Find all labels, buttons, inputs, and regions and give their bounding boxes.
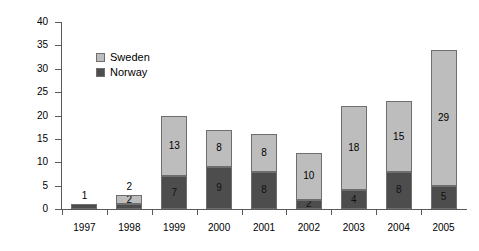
bar-segment-norway[interactable] — [71, 204, 97, 209]
bar-segment-label: 4 — [351, 195, 357, 205]
y-tick-label: 35 — [0, 40, 48, 50]
legend-item-sweden: Sweden — [96, 50, 150, 65]
bar-group[interactable]: 98 — [206, 22, 232, 209]
x-tick-mark — [331, 210, 332, 215]
bar-segment-label: 10 — [303, 171, 314, 181]
bar-segment-norway[interactable]: 5 — [431, 186, 457, 209]
bar-segment-norway[interactable]: 8 — [386, 172, 412, 209]
bar-segment-sweden[interactable]: 2 — [116, 195, 142, 204]
bar-group[interactable]: 418 — [341, 22, 367, 209]
bar-segment-label: 13 — [169, 141, 180, 151]
x-axis-line — [61, 209, 467, 210]
bar-segment-sweden[interactable]: 13 — [161, 116, 187, 177]
x-tick-mark — [62, 210, 63, 215]
bar-group[interactable]: 529 — [431, 22, 457, 209]
bar-group[interactable]: 1 — [71, 22, 97, 209]
bar-group[interactable]: 815 — [386, 22, 412, 209]
y-tick-mark — [55, 209, 61, 210]
x-tick-mark — [107, 210, 108, 215]
bar-group[interactable]: 713 — [161, 22, 187, 209]
y-tick-label: 40 — [0, 17, 48, 27]
x-tick-label: 2005 — [414, 222, 474, 233]
y-tick-label: 10 — [0, 157, 48, 167]
bar-segment-norway[interactable]: 9 — [206, 167, 232, 209]
y-tick-label: 5 — [0, 181, 48, 191]
y-tick-label: 15 — [0, 134, 48, 144]
bar-segment-sweden[interactable]: 29 — [431, 50, 457, 186]
bar-segment-label: 29 — [438, 113, 449, 123]
bar-segment-norway[interactable]: 2 — [296, 200, 322, 209]
bar-group[interactable]: 210 — [296, 22, 322, 209]
y-tick-label: 25 — [0, 87, 48, 97]
bar-segment-label: 15 — [393, 132, 404, 142]
legend-label-norway: Norway — [110, 67, 147, 78]
norway-swatch-icon — [96, 68, 105, 77]
bar-segment-label: 9 — [216, 183, 222, 193]
bar-chart-figure: Number of attacked dogs 0510152025303540… — [0, 0, 479, 251]
x-tick-mark — [376, 210, 377, 215]
y-tick-mark — [55, 116, 61, 117]
legend-label-sweden: Sweden — [110, 52, 150, 63]
y-tick-mark — [55, 139, 61, 140]
bar-segment-sweden[interactable]: 10 — [296, 153, 322, 200]
bar-segment-norway[interactable] — [116, 204, 142, 209]
bar-segment-sweden[interactable]: 15 — [386, 101, 412, 171]
bar-segment-label: 8 — [396, 185, 402, 195]
bar-segment-label: 2 — [306, 200, 312, 209]
bar-segment-sweden[interactable]: 8 — [206, 130, 232, 167]
bar-segment-label: 8 — [216, 143, 222, 153]
x-tick-mark — [197, 210, 198, 215]
bar-segment-label: 18 — [348, 143, 359, 153]
bar-segment-sweden[interactable]: 8 — [251, 134, 277, 171]
bar-segment-label: 5 — [441, 192, 447, 202]
bar-segment-sweden[interactable]: 18 — [341, 106, 367, 190]
y-tick-mark — [55, 69, 61, 70]
y-tick-mark — [55, 22, 61, 23]
bar-segment-label: 2 — [127, 195, 133, 204]
sweden-swatch-icon — [96, 53, 105, 62]
y-tick-mark — [55, 186, 61, 187]
y-tick-label: 30 — [0, 64, 48, 74]
bar-segment-label: 7 — [171, 188, 177, 198]
y-tick-label: 0 — [0, 204, 48, 214]
y-tick-label: 20 — [0, 111, 48, 121]
bar-top-label: 1 — [71, 191, 97, 201]
bar-segment-label: 8 — [261, 185, 267, 195]
bar-segment-norway[interactable]: 7 — [161, 176, 187, 209]
x-tick-mark — [286, 210, 287, 215]
y-tick-mark — [55, 45, 61, 46]
x-tick-mark — [242, 210, 243, 215]
bar-top-label: 2 — [116, 182, 142, 192]
y-tick-mark — [55, 92, 61, 93]
y-tick-mark — [55, 162, 61, 163]
legend: Sweden Norway — [96, 50, 150, 80]
legend-item-norway: Norway — [96, 65, 150, 80]
x-tick-mark — [421, 210, 422, 215]
bar-segment-norway[interactable]: 8 — [251, 172, 277, 209]
bar-segment-norway[interactable]: 4 — [341, 190, 367, 209]
x-tick-mark — [152, 210, 153, 215]
bar-segment-label: 8 — [261, 148, 267, 158]
bar-group[interactable]: 88 — [251, 22, 277, 209]
